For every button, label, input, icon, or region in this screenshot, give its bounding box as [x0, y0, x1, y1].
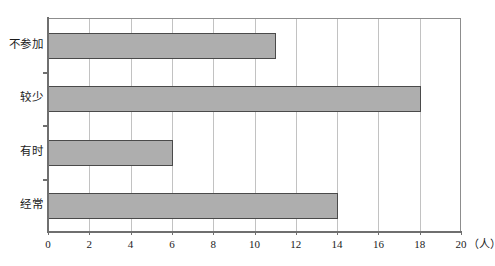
horizontal-bar-chart: 不参加较少有时经常 02468101214161820 （人）: [0, 0, 495, 266]
x-axis-unit-label: （人）: [468, 238, 495, 251]
x-tick-mark-8: [213, 231, 214, 235]
category-label-较少: 较少: [20, 91, 43, 104]
x-tick-label-10: 10: [242, 238, 268, 251]
x-tick-label-6: 6: [159, 238, 185, 251]
y-axis-tick-2: [43, 125, 48, 127]
x-tick-label-14: 14: [324, 238, 350, 251]
y-axis-tick-1: [43, 72, 48, 74]
x-tick-label-0: 0: [35, 238, 61, 251]
x-tick-label-16: 16: [365, 238, 391, 251]
x-tick-label-8: 8: [200, 238, 226, 251]
category-label-有时: 有时: [20, 145, 43, 158]
y-axis-tick-3: [43, 179, 48, 181]
x-tick-mark-14: [337, 231, 338, 235]
x-tick-mark-20: [461, 231, 462, 235]
x-tick-label-18: 18: [407, 238, 433, 251]
x-tick-label-4: 4: [118, 238, 144, 251]
x-tick-mark-12: [296, 231, 297, 235]
x-tick-label-2: 2: [76, 238, 102, 251]
x-tick-mark-4: [131, 231, 132, 235]
bar-经常: [48, 193, 338, 219]
gridline-16: [378, 19, 379, 231]
x-tick-mark-18: [420, 231, 421, 235]
x-tick-mark-2: [89, 231, 90, 235]
gridline-18: [420, 19, 421, 231]
x-tick-label-12: 12: [283, 238, 309, 251]
bar-有时: [48, 140, 173, 166]
category-label-不参加: 不参加: [9, 38, 43, 51]
bar-较少: [48, 86, 421, 112]
x-tick-mark-0: [48, 231, 49, 235]
x-tick-mark-10: [255, 231, 256, 235]
plot-area: [48, 18, 461, 232]
bar-不参加: [48, 33, 276, 59]
category-label-经常: 经常: [20, 198, 43, 211]
x-tick-mark-6: [172, 231, 173, 235]
x-tick-mark-16: [378, 231, 379, 235]
